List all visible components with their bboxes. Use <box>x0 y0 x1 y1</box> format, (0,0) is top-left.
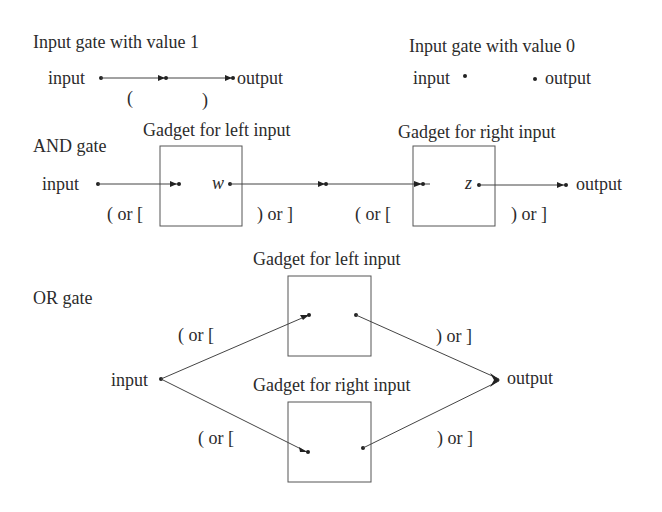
input-gate-0-title: Input gate with value 0 <box>409 36 575 56</box>
and-gate-title: AND gate <box>33 136 106 156</box>
input-gate-1-wires <box>99 75 235 81</box>
input-gate-1-input-label: input <box>48 68 85 88</box>
or-bottom-gadget-title: Gadget for right input <box>253 375 410 395</box>
input-gate-1-title: Input gate with value 1 <box>33 32 199 52</box>
and-left-gadget-title: Gadget for left input <box>143 120 290 140</box>
or-bracket-1: ( or [ <box>178 325 214 345</box>
and-output-label: output <box>576 174 622 194</box>
or-bracket-2: ) or ] <box>436 326 472 346</box>
and-right-gadget-var: z <box>465 173 472 193</box>
input-gate-0-dots <box>463 74 537 81</box>
and-gate-wires <box>96 146 568 226</box>
input-gate-1-output-label: output <box>237 68 283 88</box>
or-bottom-gadget-box <box>288 402 371 482</box>
or-bracket-4: ) or ] <box>437 428 473 448</box>
or-top-gadget-title: Gadget for left input <box>253 249 400 269</box>
and-right-gadget-box <box>413 146 495 226</box>
or-input-label: input <box>111 370 148 390</box>
input-gate-1-close-bracket: ) <box>202 90 208 110</box>
or-output-label: output <box>507 368 553 388</box>
and-bracket-1: ( or [ <box>107 204 143 224</box>
or-gate-title: OR gate <box>33 288 92 308</box>
input-gate-1-open-bracket: ( <box>127 88 133 108</box>
and-right-gadget-title: Gadget for right input <box>398 122 555 142</box>
input-gate-0-output-label: output <box>545 68 591 88</box>
or-bracket-3: ( or [ <box>198 428 234 448</box>
input-gate-0-input-label: input <box>413 68 450 88</box>
and-left-gadget-var: w <box>212 173 224 193</box>
and-bracket-2: ) or ] <box>257 204 293 224</box>
and-bracket-4: ) or ] <box>511 204 547 224</box>
and-bracket-3: ( or [ <box>355 204 391 224</box>
and-input-label: input <box>42 174 79 194</box>
